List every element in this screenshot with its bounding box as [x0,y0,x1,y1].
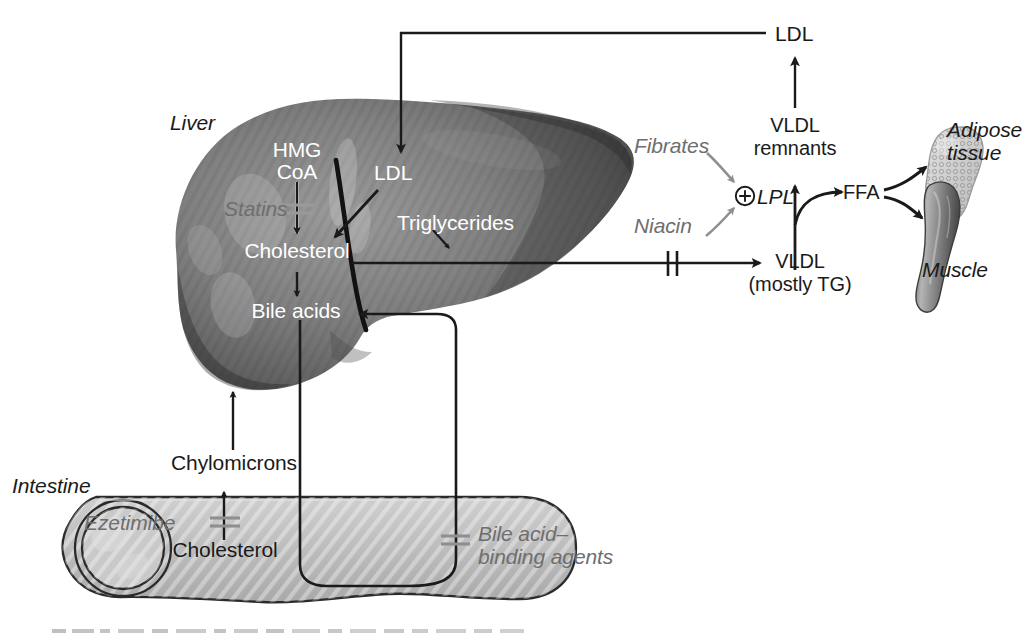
organ-label-muscle: Muscle [922,258,988,282]
node-hmg-coa-line1: HMG [273,138,322,162]
node-chylomicrons: Chylomicrons [171,451,297,475]
diagram-canvas: Liver Intestine Adipose tissue Muscle LD… [0,0,1025,633]
organ-label-liver: Liver [170,111,215,135]
edge-fibrates-to-lpl [707,153,734,182]
node-bile-acids: Bile acids [252,299,341,323]
drug-label-niacin: Niacin [634,214,692,238]
node-triglycerides: Triglycerides [397,211,514,235]
node-vldl-line2: (mostly TG) [749,273,852,295]
edge-ffa-to-adipose [884,167,926,190]
node-hmg-coa-line2: CoA [277,160,318,184]
edge-ffa-to-muscle [884,197,922,218]
node-ffa: FFA [843,181,879,203]
node-ldl-circulating: LDL [775,22,813,46]
node-cholesterol-liver: Cholesterol [244,239,349,263]
node-ldl-liver: LDL [374,161,412,185]
drug-label-fibrates: Fibrates [634,134,709,158]
edge-niacin-to-lpl [706,208,734,236]
node-vldl-line1: VLDL [775,250,825,272]
lpl-activation-icon [736,187,754,205]
node-cholesterol-intestine: Cholesterol [172,538,277,562]
node-vldl-remnants-line2: remnants [754,137,837,159]
drug-label-ezetimibe: Ezetimibe [84,511,175,535]
muscle-shape [916,182,960,312]
drug-label-statins: Statins [224,197,288,221]
drug-label-bile-acid-agents-line1: Bile acid– [478,522,568,546]
drug-label-bile-acid-agents-line2: binding agents [478,545,613,569]
organ-label-intestine: Intestine [12,474,91,498]
organ-label-adipose-line2: tissue [947,141,1001,165]
organ-label-adipose-line1: Adipose [947,118,1022,142]
node-vldl-remnants-line1: VLDL [770,114,820,136]
node-lpl: LPL [757,185,794,209]
cropped-caption-strip [0,624,1025,633]
edge-vldl-to-ffa [795,192,842,225]
